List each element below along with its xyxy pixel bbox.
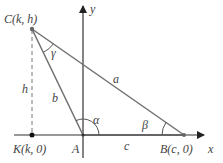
triangle-diagram: C(k, h) y a h b γ α β c K(k, 0) A B(c, 0… xyxy=(0,0,223,163)
label-point-k: K(k, 0) xyxy=(13,143,46,155)
side-b xyxy=(32,29,83,135)
label-angle-beta: β xyxy=(142,119,148,131)
label-point-b: B(c, 0) xyxy=(160,143,193,155)
point-a xyxy=(81,133,84,136)
angle-beta-arc xyxy=(162,122,166,135)
label-height-h: h xyxy=(22,83,28,95)
point-c xyxy=(30,27,34,31)
label-point-a: A xyxy=(72,143,79,155)
label-angle-alpha: α xyxy=(93,114,99,126)
point-k xyxy=(30,133,35,138)
label-point-c: C(k, h) xyxy=(4,13,37,25)
label-side-a: a xyxy=(113,73,119,85)
side-a xyxy=(32,29,184,135)
label-angle-gamma: γ xyxy=(51,47,56,59)
label-x-axis: x xyxy=(208,143,213,155)
label-side-c: c xyxy=(124,140,129,152)
point-b xyxy=(182,133,186,137)
label-y-axis: y xyxy=(90,3,95,15)
label-side-b: b xyxy=(52,92,58,104)
